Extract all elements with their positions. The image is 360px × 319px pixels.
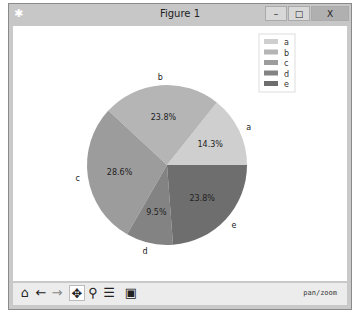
slice-percent-label: 9.5% [146, 208, 167, 217]
legend-swatch [264, 71, 278, 76]
legend-swatch [264, 81, 278, 86]
slice-percent-label: 28.6% [107, 168, 133, 177]
slice-category-label: d [142, 247, 147, 256]
pie-slice-e [167, 165, 247, 245]
slice-percent-label: 23.8% [151, 113, 177, 122]
legend-swatch [264, 39, 278, 44]
legend-label: d [284, 70, 289, 79]
title-bar[interactable]: ✱ Figure 1 – □ X [9, 4, 351, 26]
zoom-icon[interactable]: ⚲ [85, 285, 101, 301]
pie-chart: 14.3%a23.8%b28.6%c9.5%d23.8%eabcde [13, 26, 347, 281]
slice-percent-label: 14.3% [198, 140, 224, 149]
legend-label: e [284, 80, 289, 89]
slice-category-label: a [246, 123, 251, 132]
slice-percent-label: 23.8% [189, 194, 215, 203]
slice-category-label: e [232, 221, 237, 230]
legend-swatch [264, 60, 278, 65]
close-button[interactable]: X [311, 6, 349, 21]
status-text: pan/zoom [303, 289, 337, 297]
back-arrow-icon[interactable]: ← [33, 285, 49, 301]
legend-label: b [284, 49, 289, 58]
slice-category-label: c [76, 174, 80, 183]
window-controls: – □ X [264, 6, 349, 22]
save-icon[interactable]: ▣ [123, 285, 139, 301]
slice-category-label: b [158, 73, 163, 82]
legend-swatch [264, 50, 278, 55]
legend-label: a [284, 38, 289, 47]
home-icon[interactable]: ⌂ [17, 285, 33, 301]
minimize-button[interactable]: – [265, 6, 287, 21]
forward-arrow-icon[interactable]: → [49, 285, 65, 301]
figure-canvas[interactable]: 14.3%a23.8%b28.6%c9.5%d23.8%eabcde [13, 26, 347, 281]
figure-window: ✱ Figure 1 – □ X 14.3%a23.8%b28.6%c9.5%d… [8, 3, 352, 310]
navigation-toolbar: ⌂ ← → ✥ ⚲ ☰ ▣ pan/zoom [13, 283, 347, 305]
legend-label: c [284, 59, 288, 68]
configure-subplots-icon[interactable]: ☰ [101, 285, 117, 301]
maximize-button[interactable]: □ [288, 6, 310, 21]
pan-icon[interactable]: ✥ [69, 285, 85, 301]
